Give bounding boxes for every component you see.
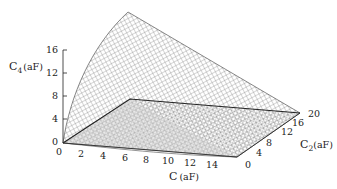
z-tick: 8 bbox=[52, 90, 58, 101]
y-tick: 20 bbox=[308, 108, 320, 119]
x-tick: 2 bbox=[78, 148, 84, 159]
x-tick: 6 bbox=[122, 152, 128, 163]
x-tick: 10 bbox=[162, 155, 174, 166]
y-axis-title: C2(aF) bbox=[300, 138, 333, 153]
y-tick: 8 bbox=[266, 137, 272, 148]
x-tick: 14 bbox=[206, 159, 218, 170]
x-tick: 0 bbox=[56, 146, 62, 157]
x-tick: 12 bbox=[184, 157, 196, 168]
z-tick: 12 bbox=[46, 67, 58, 78]
x-axis-title: C(aF) bbox=[169, 170, 199, 183]
surface-plot: 16 12 8 4 0 C4(aF) 0 2 4 6 8 10 12 14 C(… bbox=[0, 0, 337, 189]
x-tick: 4 bbox=[100, 150, 106, 161]
z-tick: 4 bbox=[52, 113, 58, 124]
surface-mesh bbox=[63, 12, 300, 157]
y-tick: 16 bbox=[292, 117, 304, 128]
z-axis-title: C4(aF) bbox=[9, 60, 43, 75]
x-tick: 8 bbox=[143, 154, 149, 165]
z-axis: 16 12 8 4 0 C4(aF) bbox=[9, 44, 67, 147]
y-tick: 0 bbox=[245, 159, 251, 170]
z-tick: 16 bbox=[46, 44, 58, 55]
y-tick: 4 bbox=[256, 147, 262, 158]
